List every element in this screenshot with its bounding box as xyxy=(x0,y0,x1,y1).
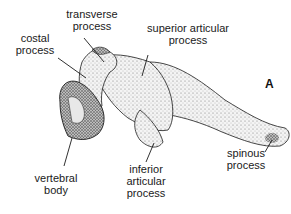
label-vertebral-body: vertebral body xyxy=(28,172,84,196)
label-line: articular xyxy=(118,175,174,187)
label-spinous-process: spinous process xyxy=(208,147,284,171)
label-superior-articular-process: superior articular process xyxy=(138,22,238,46)
label-inferior-articular-process: inferior articular process xyxy=(118,163,174,199)
label-line: process xyxy=(138,34,238,46)
label-line: inferior xyxy=(118,163,174,175)
label-costal-process: costal process xyxy=(10,32,60,56)
label-transverse-process: transverse process xyxy=(62,8,122,32)
label-line: process xyxy=(208,159,284,171)
label-line: vertebral xyxy=(28,172,84,184)
label-line: superior articular xyxy=(138,22,238,34)
vertebra-diagram: transverse process costal process superi… xyxy=(0,0,291,214)
label-line: spinous xyxy=(208,147,284,159)
label-line: body xyxy=(28,184,84,196)
label-line: costal xyxy=(10,32,60,44)
label-line: transverse xyxy=(62,8,122,20)
leader-vertebral-body xyxy=(64,138,72,166)
label-line: process xyxy=(62,20,122,32)
panel-letter: A xyxy=(265,77,274,91)
label-line: process xyxy=(118,187,174,199)
label-line: process xyxy=(10,44,60,56)
